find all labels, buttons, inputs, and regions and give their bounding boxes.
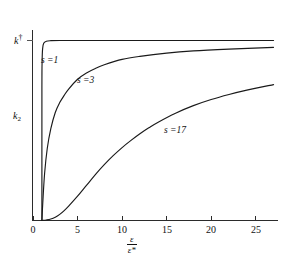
x-axis-ticks — [33, 216, 256, 221]
x-tick-label-5: 5 — [70, 225, 85, 235]
x-tick-label-10: 10 — [113, 225, 131, 235]
x-tick-label-20: 20 — [202, 225, 220, 235]
curve-series-s-17 — [42, 85, 274, 221]
figure-container: k† k2 0 5 10 15 20 25 ε ε* s =1 s =3 s =… — [0, 0, 289, 265]
curve-series-s-3 — [42, 47, 274, 220]
series-annotation-s-3: s =3 — [77, 76, 94, 86]
chart-plot-area — [0, 0, 289, 265]
x-axis-label-numerator: ε — [127, 235, 137, 245]
y-axis-reference-label: k† — [14, 34, 22, 46]
x-axis-label: ε ε* — [127, 235, 137, 256]
y-axis-label: k2 — [13, 111, 21, 123]
y-axis-subscript: 2 — [17, 115, 21, 123]
series-annotation-s-17: s =17 — [164, 126, 186, 136]
x-tick-label-25: 25 — [247, 225, 265, 235]
y-reference-superscript: † — [18, 33, 22, 42]
curve-series-s-1 — [42, 40, 274, 220]
series-annotation-s-1: s =1 — [41, 56, 58, 66]
x-tick-label-0: 0 — [26, 225, 40, 235]
x-axis-label-denominator: ε* — [127, 245, 137, 255]
x-tick-label-15: 15 — [158, 225, 176, 235]
